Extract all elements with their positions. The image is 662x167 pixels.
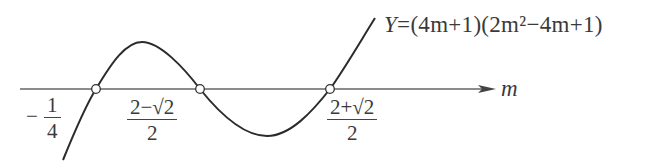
root-3-numerator: 2+√2 <box>327 96 377 120</box>
curve-equation: Y=(4m+1)(2m²−4m+1) <box>384 12 603 38</box>
root-point-3 <box>326 85 335 94</box>
root-point-2 <box>196 85 205 94</box>
equation-equals: = <box>397 12 410 37</box>
root-3-label: 2+√2 2 <box>327 96 377 144</box>
root-1-sign: − <box>26 104 38 129</box>
root-1-label: 1 4 <box>44 94 61 142</box>
root-1-denominator: 4 <box>47 118 58 142</box>
root-2-denominator: 2 <box>147 120 158 144</box>
root-2-label: 2−√2 2 <box>127 96 177 144</box>
equation-lhs: Y <box>384 12 397 37</box>
root-1-numerator: 1 <box>44 94 61 118</box>
root-3-denominator: 2 <box>347 120 358 144</box>
root-point-1 <box>92 85 101 94</box>
m-axis-label: m <box>501 76 518 102</box>
root-2-numerator: 2−√2 <box>127 96 177 120</box>
equation-rhs: (4m+1)(2m²−4m+1) <box>410 12 602 37</box>
